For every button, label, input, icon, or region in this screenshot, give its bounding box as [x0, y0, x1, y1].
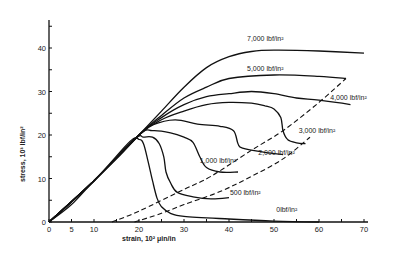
y-tick-label: 10: [38, 175, 46, 184]
curve-label: 5,000 lbf/in²: [247, 65, 284, 72]
curve-label: 2,000 lbf/in²: [258, 149, 295, 156]
x-axis-label: strain, 10² μin/in: [122, 235, 176, 243]
x-tick-label: 60: [315, 225, 323, 234]
curve-label: 4,000 lbf/in²: [330, 94, 367, 101]
x-tick-label: 30: [180, 225, 188, 234]
stress-strain-chart: 0510203040506070010203040 7,000 lbf/in²5…: [0, 0, 402, 262]
curve-label: 7,000 lbf/in²: [247, 35, 284, 42]
curve-label: 500 lbf/in²: [230, 189, 261, 196]
y-tick-label: 40: [38, 44, 46, 53]
x-tick-label: 70: [360, 225, 368, 234]
curve-label: 0lbf/in²: [276, 206, 298, 213]
y-axis-label: stress, 10³ lbf/in²: [19, 126, 27, 182]
x-tick-label: 40: [225, 225, 233, 234]
x-tick-label: 20: [135, 225, 143, 234]
x-tick-label: 0: [47, 225, 51, 234]
x-tick-label: 5: [69, 225, 73, 234]
curve-labels: 7,000 lbf/in²5,000 lbf/in²4,000 lbf/in²3…: [200, 35, 368, 212]
y-tick-label: 0: [42, 218, 46, 227]
x-tick-label: 10: [90, 225, 98, 234]
x-tick-label: 50: [270, 225, 278, 234]
curve-label: 3,000 lbf/in²: [299, 127, 336, 134]
y-tick-label: 30: [38, 88, 46, 97]
curve-label: 1,000 lbf/in²: [200, 157, 237, 164]
y-tick-label: 20: [38, 131, 46, 140]
stress-curve: [49, 136, 229, 222]
